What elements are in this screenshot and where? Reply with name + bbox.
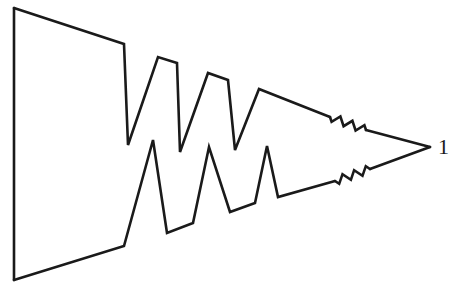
top-zigzag-edge <box>14 8 330 152</box>
top-tail-line <box>366 130 430 147</box>
diagram-canvas <box>0 0 459 299</box>
top-spring-icon <box>330 117 366 131</box>
tip-label: 1 <box>438 136 449 158</box>
bottom-spring-icon <box>335 166 370 184</box>
bottom-zigzag-edge <box>14 140 335 280</box>
bottom-tail-line <box>370 147 430 169</box>
